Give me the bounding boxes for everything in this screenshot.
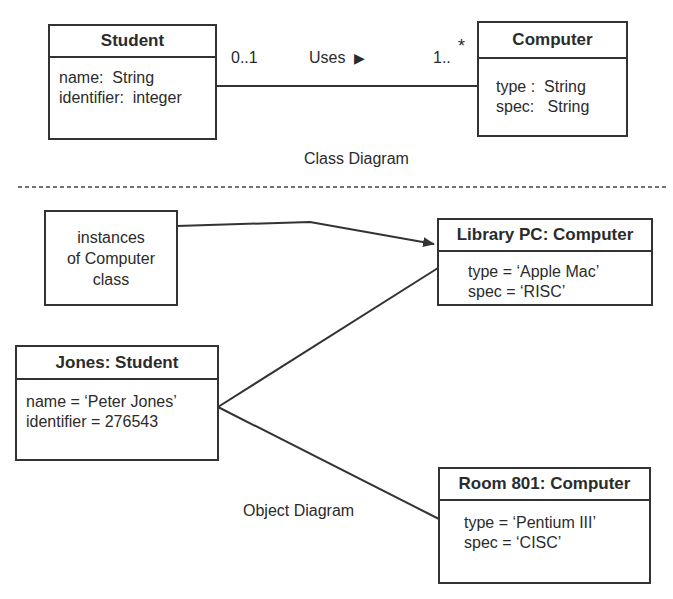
computer-multiplicity: 1..	[433, 49, 451, 67]
attribute-identifier: identifier = 276543	[26, 412, 217, 432]
attribute-type: type = ‘Pentium III’	[464, 513, 649, 533]
student-class-attributes: name: String identifier: integer	[50, 58, 215, 108]
library-pc-attributes: type = ‘Apple Mac’ spec = ‘RISC’	[439, 252, 651, 302]
computer-class-attributes: type : String spec: String	[479, 59, 626, 117]
computer-multiplicity-star: *	[458, 36, 465, 57]
attribute-type: type : String	[496, 77, 626, 97]
room-801-attributes: type = ‘Pentium III’ spec = ‘CISC’	[440, 501, 649, 553]
instances-note[interactable]: instances of Computer class	[44, 210, 178, 306]
jones-attributes: name = ‘Peter Jones’ identifier = 276543	[17, 380, 217, 432]
link-jones-librarypc	[218, 268, 438, 407]
student-class-box[interactable]: Student name: String identifier: integer	[48, 24, 217, 140]
student-multiplicity: 0..1	[231, 49, 258, 67]
student-class-name: Student	[50, 26, 215, 58]
room-801-object-name: Room 801: Computer	[440, 469, 649, 501]
note-arrow	[177, 222, 434, 244]
direction-triangle-icon: ▶	[354, 50, 365, 66]
jones-object-box[interactable]: Jones: Student name = ‘Peter Jones’ iden…	[15, 345, 219, 461]
attribute-name: name: String	[59, 68, 215, 88]
note-line-3: class	[67, 269, 155, 290]
association-name: Uses	[309, 49, 345, 66]
library-pc-object-name: Library PC: Computer	[439, 220, 651, 252]
note-line-2: of Computer	[67, 248, 155, 269]
association-label: Uses ▶	[309, 49, 365, 67]
attribute-spec: spec = ‘CISC’	[464, 533, 649, 553]
attribute-spec: spec: String	[496, 97, 626, 117]
computer-class-box[interactable]: Computer type : String spec: String	[477, 21, 628, 137]
attribute-spec: spec = ‘RISC’	[468, 282, 651, 302]
attribute-name: name = ‘Peter Jones’	[26, 392, 217, 412]
jones-object-name: Jones: Student	[17, 347, 217, 380]
room-801-object-box[interactable]: Room 801: Computer type = ‘Pentium III’ …	[438, 467, 651, 584]
attribute-identifier: identifier: integer	[59, 88, 215, 108]
note-text: instances of Computer class	[67, 227, 155, 290]
note-line-1: instances	[67, 227, 155, 248]
attribute-type: type = ‘Apple Mac’	[468, 262, 651, 282]
library-pc-object-box[interactable]: Library PC: Computer type = ‘Apple Mac’ …	[437, 218, 653, 306]
object-diagram-caption: Object Diagram	[243, 502, 354, 520]
class-diagram-caption: Class Diagram	[304, 150, 409, 168]
computer-class-name: Computer	[479, 23, 626, 59]
